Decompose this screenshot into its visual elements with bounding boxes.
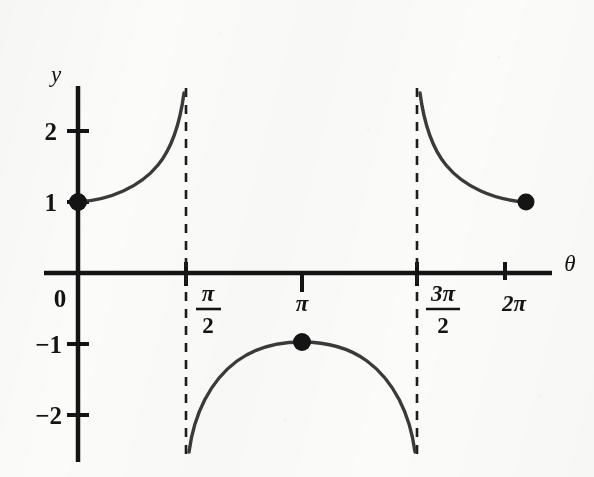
- three-pi-over-2-denominator: 2: [437, 313, 449, 338]
- secant-branch-middle: [189, 342, 415, 452]
- secant-graph-plot: y θ 2 1 −1 −2 0 π 2 π 3π 2 2π: [0, 0, 594, 477]
- x-axis-label: θ: [564, 251, 575, 276]
- x-tick-label-pi: π: [296, 291, 310, 316]
- secant-branch-right: [420, 93, 526, 202]
- x-tick-label-3pi-over-2: 3π 2: [426, 281, 460, 338]
- x-tick-label-pi-over-2: π 2: [196, 281, 221, 338]
- three-pi-over-2-numerator: 3π: [430, 281, 457, 306]
- pi-over-2-denominator: 2: [202, 313, 214, 338]
- point-0-1: [69, 193, 87, 211]
- origin-label: 0: [54, 285, 67, 312]
- secant-branch-left: [78, 93, 184, 202]
- y-tick-label-2: 2: [45, 118, 58, 145]
- point-2pi-1: [518, 194, 535, 211]
- x-tick-marks: [186, 262, 505, 292]
- axis-lines: [44, 86, 552, 462]
- y-tick-label-1: 1: [45, 189, 58, 216]
- point-pi-neg1: [293, 333, 311, 351]
- y-axis-label: y: [49, 62, 62, 87]
- y-tick-label-neg1: −1: [35, 331, 62, 358]
- y-tick-label-neg2: −2: [35, 402, 62, 429]
- figure-canvas: y θ 2 1 −1 −2 0 π 2 π 3π 2 2π: [0, 0, 594, 477]
- x-tick-label-2pi: 2π: [501, 291, 528, 316]
- pi-over-2-numerator: π: [202, 281, 216, 306]
